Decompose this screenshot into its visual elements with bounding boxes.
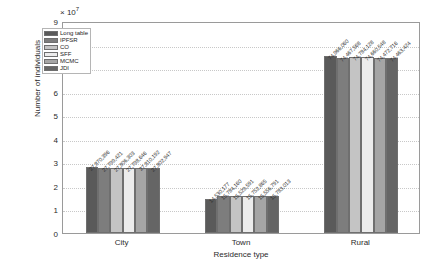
bar[interactable] (147, 168, 159, 233)
y-axis-tick-label: 4 (40, 135, 58, 144)
legend-swatch-icon (44, 52, 58, 57)
legend-swatch-icon (44, 45, 58, 50)
legend-item[interactable]: SFF (44, 51, 88, 58)
legend-label: JDI (60, 65, 69, 72)
bar[interactable] (267, 196, 279, 233)
legend-swatch-icon (44, 31, 58, 36)
y-axis-exponent-text: × 10 (60, 8, 76, 17)
legend-swatch-icon (44, 38, 58, 43)
legend-item[interactable]: JDI (44, 65, 88, 72)
legend-item[interactable]: Long table (44, 30, 88, 37)
legend-label: Long table (60, 30, 88, 37)
bar[interactable] (242, 196, 254, 233)
y-axis-tick-label: 1 (40, 206, 58, 215)
bar[interactable] (86, 167, 98, 233)
y-axis-tick-label: 9 (40, 18, 58, 27)
legend: Long tableIPFSRCOSFFMCMCJDI (42, 28, 91, 74)
y-axis-tick-label: 3 (40, 159, 58, 168)
y-axis-tick-label: 5 (40, 112, 58, 121)
x-axis-tick-label-town: Town (232, 238, 251, 247)
legend-swatch-icon (44, 59, 58, 64)
bar[interactable] (324, 56, 336, 233)
bar[interactable] (254, 196, 266, 233)
bar[interactable] (386, 58, 398, 233)
legend-label: CO (60, 44, 69, 51)
legend-swatch-icon (44, 66, 58, 71)
legend-label: MCMC (60, 58, 79, 65)
legend-item[interactable]: CO (44, 44, 88, 51)
legend-label: SFF (60, 51, 71, 58)
bar[interactable] (110, 168, 122, 233)
legend-label: IPFSR (60, 37, 78, 44)
bar[interactable] (230, 196, 242, 233)
legend-item[interactable]: IPFSR (44, 37, 88, 44)
bar[interactable] (349, 57, 361, 233)
y-axis-tick-label: 2 (40, 182, 58, 191)
bar[interactable] (135, 168, 147, 234)
x-axis-tick-label-city: City (115, 238, 129, 247)
bar[interactable] (374, 58, 386, 233)
bar[interactable] (337, 58, 349, 233)
y-axis-exponent-power: 7 (76, 6, 79, 12)
x-axis-tick-label-rural: Rural (351, 238, 370, 247)
y-axis-exponent: × 107 (60, 6, 79, 17)
legend-item[interactable]: MCMC (44, 58, 88, 65)
y-axis-tick-label: 0 (40, 230, 58, 239)
x-axis-title: Residence type (62, 250, 420, 259)
chart-root: × 107 Number of individuals 0123456789 2… (0, 0, 432, 269)
bar[interactable] (98, 168, 110, 233)
plot-area: 27,870,39627,799,42127,806,30327,798,646… (62, 22, 420, 234)
y-axis-tick-label: 6 (40, 88, 58, 97)
bar[interactable] (123, 168, 135, 233)
bar[interactable] (361, 57, 373, 233)
